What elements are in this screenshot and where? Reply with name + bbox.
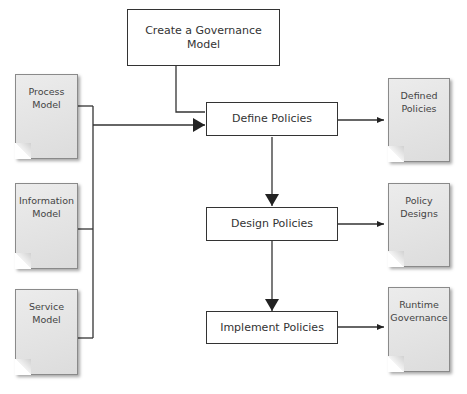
information-model-line2: Model bbox=[16, 207, 77, 220]
define-policies-box: Define Policies bbox=[206, 102, 338, 136]
design-policies-label: Design Policies bbox=[231, 217, 313, 231]
policy-designs-line2: Designs bbox=[389, 207, 449, 220]
process-model-line1: Process bbox=[16, 85, 77, 98]
service-model-line2: Model bbox=[16, 313, 77, 326]
page-fold-icon bbox=[15, 253, 31, 269]
process-model-document: Process Model bbox=[15, 74, 78, 159]
defined-policies-line2: Policies bbox=[389, 102, 449, 115]
page-fold-icon bbox=[388, 251, 404, 267]
information-model-line1: Information bbox=[16, 194, 77, 207]
page-fold-icon bbox=[15, 143, 31, 159]
implement-policies-box: Implement Policies bbox=[206, 311, 338, 344]
implement-policies-label: Implement Policies bbox=[220, 321, 324, 335]
page-fold-icon bbox=[15, 359, 31, 375]
service-model-line1: Service bbox=[16, 300, 77, 313]
runtime-governance-line1: Runtime bbox=[389, 298, 449, 311]
defined-policies-line1: Defined bbox=[389, 89, 449, 102]
governance-model-label: Create a Governance Model bbox=[144, 24, 264, 52]
runtime-governance-document: Runtime Governance bbox=[388, 287, 450, 372]
page-fold-icon bbox=[388, 356, 404, 372]
design-policies-box: Design Policies bbox=[206, 207, 338, 241]
governance-model-box: Create a Governance Model bbox=[127, 9, 280, 66]
service-model-document: Service Model bbox=[15, 289, 78, 375]
define-policies-label: Define Policies bbox=[232, 112, 312, 126]
information-model-document: Information Model bbox=[15, 183, 78, 269]
policy-designs-line1: Policy bbox=[389, 194, 449, 207]
defined-policies-document: Defined Policies bbox=[388, 78, 450, 162]
runtime-governance-line2: Governance bbox=[389, 311, 449, 324]
process-model-line2: Model bbox=[16, 98, 77, 111]
policy-designs-document: Policy Designs bbox=[388, 183, 450, 267]
page-fold-icon bbox=[388, 146, 404, 162]
